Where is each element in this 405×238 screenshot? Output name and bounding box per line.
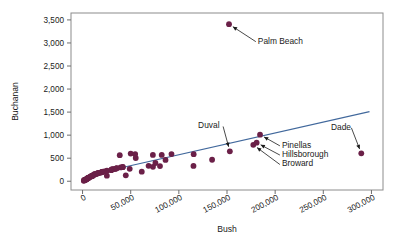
data-point — [169, 151, 175, 157]
chart-background — [0, 0, 405, 238]
data-point — [157, 163, 163, 169]
data-point — [191, 151, 197, 157]
annotation-label: Dade — [331, 122, 351, 132]
data-point — [159, 152, 165, 158]
scatter-chart: 050,000100,000150,000200,000250,000300,0… — [0, 0, 405, 238]
data-point — [209, 157, 215, 163]
data-point — [254, 140, 260, 146]
data-point — [163, 157, 169, 163]
data-point — [150, 152, 156, 158]
data-point — [257, 132, 263, 138]
chart-canvas: 050,000100,000150,000200,000250,000300,0… — [0, 0, 405, 238]
y-tick-label: 3,000 — [44, 39, 65, 48]
y-tick-label: 1,500 — [44, 108, 65, 117]
y-axis-title: Buchanan — [10, 82, 20, 121]
y-tick-label: 500 — [50, 154, 64, 163]
data-point — [120, 164, 126, 170]
data-point — [358, 150, 364, 156]
data-point — [191, 163, 197, 169]
y-tick-label: 3,500 — [44, 16, 65, 25]
data-point — [123, 172, 129, 178]
data-point — [139, 169, 145, 175]
data-point — [133, 155, 139, 161]
y-tick-label: 0 — [59, 177, 64, 186]
data-point — [104, 173, 110, 179]
y-tick-label: 1,000 — [44, 131, 65, 140]
data-point — [226, 21, 232, 27]
y-tick-label: 2,500 — [44, 62, 65, 71]
annotation-label: Duval — [198, 120, 220, 130]
y-tick-label: 2,000 — [44, 85, 65, 94]
x-axis-title: Bush — [217, 224, 237, 234]
data-point — [227, 148, 233, 154]
data-point — [117, 152, 123, 158]
annotation-label: Broward — [282, 158, 314, 168]
annotation-label: Palm Beach — [258, 36, 303, 46]
data-point — [127, 166, 133, 172]
